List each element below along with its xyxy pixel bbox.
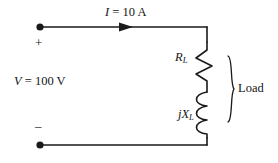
reactance-label: jXL	[178, 108, 194, 122]
voltage-label: V = 100 V	[14, 75, 66, 88]
inductor-coil-icon	[197, 92, 208, 138]
current-value: 10	[122, 5, 135, 19]
terminal-dot-positive	[36, 23, 43, 30]
reactance-symbol: jX	[178, 107, 189, 121]
current-arrow-icon	[119, 22, 133, 31]
voltage-equals: =	[22, 74, 35, 88]
resistor-label: RL	[175, 51, 187, 65]
resistor-subscript: L	[183, 55, 188, 65]
polarity-minus-label: –	[35, 119, 42, 132]
current-unit: A	[135, 5, 146, 19]
terminal-dot-negative	[36, 141, 43, 148]
voltage-unit: V	[54, 74, 66, 88]
voltage-symbol: V	[14, 74, 22, 88]
resistor-zigzag-icon	[196, 42, 212, 92]
polarity-plus-label: +	[35, 36, 42, 49]
reactance-subscript: L	[189, 112, 194, 122]
circuit-diagram: I = 10 A V = 100 V RL jXL Load + –	[0, 0, 278, 163]
voltage-value: 100	[35, 74, 54, 88]
load-bracket-icon	[228, 56, 234, 122]
current-equals: =	[109, 5, 122, 19]
current-label: I = 10 A	[105, 6, 146, 19]
resistor-symbol: R	[175, 50, 183, 64]
load-label: Load	[238, 82, 264, 95]
